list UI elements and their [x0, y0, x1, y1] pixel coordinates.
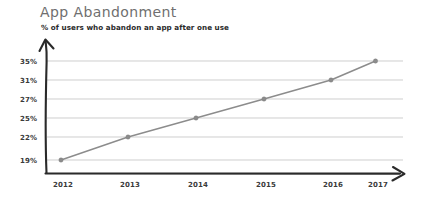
y-tick-label-27: 27%: [20, 96, 37, 104]
y-tick-label-31: 31%: [20, 77, 37, 85]
chart-plot-area: 35% 31% 27% 25% 22% 19% 2012 2013 2014 2…: [0, 0, 426, 205]
y-tick-label-19: 19%: [20, 157, 37, 165]
data-point-2015: [262, 97, 266, 101]
y-axis: [40, 40, 54, 174]
data-series: [59, 59, 378, 162]
data-point-2017: [373, 59, 377, 63]
x-axis-labels: 2012 2013 2014 2015 2016 2017: [53, 181, 388, 189]
data-point-2013: [126, 135, 130, 139]
y-tick-label-25: 25%: [20, 115, 37, 123]
x-tick-label-2013: 2013: [120, 181, 140, 189]
data-point-2016: [329, 78, 333, 82]
data-point-2014: [194, 116, 198, 120]
x-tick-label-2012: 2012: [53, 181, 73, 189]
x-tick-label-2016: 2016: [323, 181, 343, 189]
x-tick-label-2015: 2015: [256, 181, 276, 189]
chart-container: App Abandonment % of users who abandon a…: [0, 0, 426, 205]
data-point-2012: [59, 158, 63, 162]
x-tick-label-2014: 2014: [188, 181, 208, 189]
y-axis-labels: 35% 31% 27% 25% 22% 19%: [20, 58, 37, 165]
series-line: [61, 61, 376, 160]
y-tick-label-35: 35%: [20, 58, 37, 66]
y-tick-label-22: 22%: [20, 134, 37, 142]
x-tick-label-2017: 2017: [368, 181, 388, 189]
x-axis: [46, 167, 405, 181]
